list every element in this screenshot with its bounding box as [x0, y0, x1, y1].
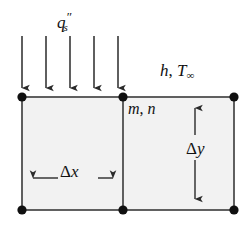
delta-y-variable: y — [197, 139, 205, 158]
infinity-subscript: ∞ — [186, 69, 194, 81]
convection-label: h, T∞ — [160, 62, 194, 81]
delta-y-label: Δy — [186, 140, 204, 157]
delta-x-variable: x — [71, 162, 79, 181]
node-top-right — [229, 92, 238, 101]
convection-coefficient: h — [160, 61, 169, 80]
delta-x-symbol: Δ — [60, 162, 71, 181]
delta-y-symbol: Δ — [186, 139, 197, 158]
convection-comma: , — [169, 61, 173, 80]
node-index-n: n — [148, 100, 156, 117]
heat-flux-superscript: ″ — [67, 9, 73, 24]
delta-x-label: Δx — [60, 163, 78, 180]
node-index-label: m, n — [128, 101, 156, 117]
diagram-canvas — [0, 0, 247, 228]
node-top-left — [17, 92, 26, 101]
node-bottom-right — [229, 205, 238, 214]
surface-heat-flux-arrows — [22, 36, 118, 88]
heat-flux-label: qs″ — [57, 10, 73, 33]
heat-transfer-node-diagram: qs″ h, T∞ m, n Δx Δy — [0, 0, 247, 228]
node-top-middle — [118, 92, 127, 101]
node-index-m: m — [128, 100, 140, 117]
node-bottom-middle — [118, 205, 127, 214]
node-bottom-left — [17, 205, 26, 214]
node-index-comma: , — [140, 100, 144, 117]
